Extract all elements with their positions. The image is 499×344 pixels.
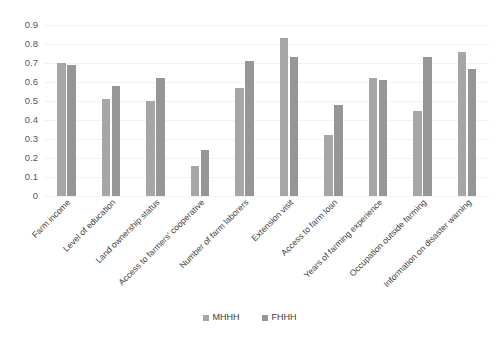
- legend-label: FHHH: [272, 313, 297, 322]
- bar: [245, 61, 254, 196]
- bar: [191, 166, 200, 196]
- bar: [413, 111, 422, 197]
- bar-group: [146, 25, 165, 196]
- bar: [369, 78, 378, 196]
- bar: [201, 150, 210, 196]
- bar-group: [57, 25, 76, 196]
- bar: [324, 135, 333, 196]
- bar-group: [369, 25, 388, 196]
- y-axis-tick-label: 0.2: [25, 153, 38, 163]
- y-axis-tick-labels: 0.90.80.70.60.50.40.30.20.10: [0, 25, 38, 196]
- x-axis-category-label: Level of education: [0, 198, 117, 344]
- x-axis-category-labels: Farm incomeLevel of educationLand owners…: [0, 198, 499, 308]
- bar: [146, 101, 155, 196]
- y-axis-tick-label: 0.1: [25, 172, 38, 182]
- bar: [57, 63, 66, 196]
- y-axis-tick-label: 0.6: [25, 77, 38, 87]
- y-axis-tick-label: 0.9: [25, 20, 38, 30]
- y-axis-tick-label: 0.4: [25, 115, 38, 125]
- bar: [290, 57, 299, 196]
- bar-group: [102, 25, 121, 196]
- legend-swatch-icon: [262, 315, 268, 321]
- bar-group: [413, 25, 432, 196]
- bar-group: [191, 25, 210, 196]
- y-axis-tick-label: 0.5: [25, 96, 38, 106]
- bar: [156, 78, 165, 196]
- bar-group: [280, 25, 299, 196]
- legend-item: MHHH: [203, 313, 240, 322]
- plot-area: [44, 25, 489, 196]
- bar: [379, 80, 388, 196]
- bar-group: [235, 25, 254, 196]
- bar: [423, 57, 432, 196]
- bar: [235, 88, 244, 196]
- bar: [334, 105, 343, 196]
- bar: [112, 86, 121, 196]
- legend-label: MHHH: [213, 313, 240, 322]
- bar: [280, 38, 289, 196]
- bar-group: [324, 25, 343, 196]
- bar-group: [458, 25, 477, 196]
- y-axis-tick-label: 0.7: [25, 58, 38, 68]
- chart-legend: MHHHFHHH: [0, 313, 499, 322]
- bar: [458, 52, 467, 196]
- y-axis-tick-label: 0.3: [25, 134, 38, 144]
- bar: [468, 69, 477, 196]
- bar: [102, 99, 111, 196]
- y-axis-tick-label: 0.8: [25, 39, 38, 49]
- bar: [67, 65, 76, 196]
- bar-chart: 0.90.80.70.60.50.40.30.20.10 Farm income…: [0, 0, 499, 344]
- legend-swatch-icon: [203, 315, 209, 321]
- legend-item: FHHH: [262, 313, 297, 322]
